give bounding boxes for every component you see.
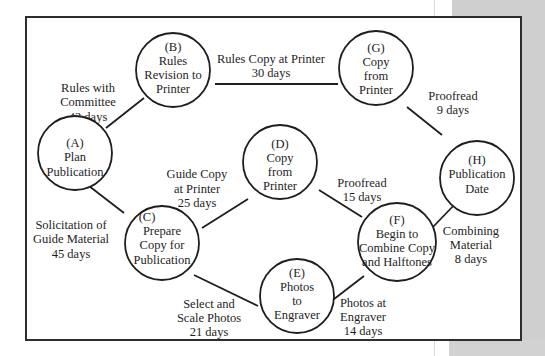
svg-text:Date: Date xyxy=(465,182,489,196)
node-h-publication-date: (H) Publication Date xyxy=(440,141,514,215)
svg-text:Proofread: Proofread xyxy=(428,89,478,103)
svg-text:Revision to: Revision to xyxy=(144,68,201,82)
svg-text:Printer: Printer xyxy=(156,82,191,96)
node-b-rules-revision: (B) Rules Revision to Printer xyxy=(136,33,210,107)
svg-text:Publication: Publication xyxy=(47,165,105,179)
network-diagram: Rules with Committee 42 days Rules Copy … xyxy=(0,0,545,356)
svg-text:from: from xyxy=(364,69,389,83)
svg-text:Rules Copy at Printer: Rules Copy at Printer xyxy=(217,52,326,66)
svg-text:Guide Copy: Guide Copy xyxy=(167,167,229,181)
svg-text:at Printer: at Printer xyxy=(174,182,221,196)
svg-text:Begin to: Begin to xyxy=(376,227,419,241)
svg-text:Rules: Rules xyxy=(159,54,188,68)
svg-text:Photos at: Photos at xyxy=(340,296,387,310)
svg-text:Publication: Publication xyxy=(134,253,192,267)
svg-text:15 days: 15 days xyxy=(343,190,382,204)
svg-text:Copy for: Copy for xyxy=(140,238,186,252)
node-g-copy-from-printer: (G) Copy from Printer xyxy=(339,31,413,105)
svg-text:Engraver: Engraver xyxy=(274,308,321,322)
svg-text:to: to xyxy=(292,294,302,308)
edge-label-e-f: Photos at Engraver 14 days xyxy=(340,296,387,338)
svg-text:8 days: 8 days xyxy=(455,252,487,266)
svg-text:Rules with: Rules with xyxy=(61,81,116,95)
svg-text:30 days: 30 days xyxy=(252,66,291,80)
svg-text:Photos: Photos xyxy=(280,280,314,294)
svg-text:9 days: 9 days xyxy=(437,103,469,117)
svg-text:from: from xyxy=(268,165,293,179)
node-e-photos-to-engraver: (E) Photos to Engraver xyxy=(260,259,334,333)
svg-text:Committee: Committee xyxy=(60,95,116,109)
svg-text:Plan: Plan xyxy=(64,150,87,164)
svg-text:Publication: Publication xyxy=(449,167,507,181)
svg-text:Select and: Select and xyxy=(183,297,235,311)
svg-text:(B): (B) xyxy=(165,40,182,54)
svg-text:Copy: Copy xyxy=(362,55,390,69)
svg-text:Printer: Printer xyxy=(263,179,298,193)
svg-text:Guide Material: Guide Material xyxy=(33,232,110,246)
svg-text:Combine Copy: Combine Copy xyxy=(359,241,436,255)
svg-text:Prepare: Prepare xyxy=(143,224,182,238)
svg-text:(A): (A) xyxy=(66,136,83,150)
svg-text:(G): (G) xyxy=(367,41,384,55)
svg-text:Scale Photos: Scale Photos xyxy=(177,311,241,325)
svg-text:Solicitation of: Solicitation of xyxy=(35,218,107,232)
svg-text:Printer: Printer xyxy=(359,83,394,97)
node-c-prepare-copy: (C) Prepare Copy for Publication xyxy=(125,206,199,280)
svg-text:(D): (D) xyxy=(271,137,288,151)
node-f-combine-copy: (F) Begin to Combine Copy and Halftones xyxy=(358,203,436,281)
svg-text:(C): (C) xyxy=(139,210,156,224)
svg-text:Proofread: Proofread xyxy=(337,176,387,190)
svg-text:45 days: 45 days xyxy=(52,247,91,261)
svg-text:(H): (H) xyxy=(468,153,485,167)
svg-text:Combining: Combining xyxy=(443,224,500,238)
edge-label-d-f: Proofread 15 days xyxy=(337,176,387,204)
svg-text:14 days: 14 days xyxy=(344,324,383,338)
svg-text:21 days: 21 days xyxy=(190,325,229,339)
svg-text:(F): (F) xyxy=(389,213,404,227)
svg-text:Engraver: Engraver xyxy=(340,310,387,324)
svg-text:and Halftones: and Halftones xyxy=(362,255,432,269)
svg-text:25 days: 25 days xyxy=(178,196,217,210)
diagram-page: Rules with Committee 42 days Rules Copy … xyxy=(0,0,545,356)
svg-text:(E): (E) xyxy=(289,266,305,280)
svg-text:Material: Material xyxy=(450,238,493,252)
node-a-plan-publication: (A) Plan Publication xyxy=(38,116,112,190)
svg-text:Copy: Copy xyxy=(266,151,294,165)
node-d-copy-from-printer: (D) Copy from Printer xyxy=(243,125,317,199)
